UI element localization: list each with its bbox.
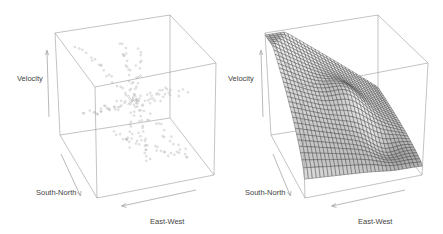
scatter-point — [149, 92, 151, 94]
scatter-point — [145, 138, 147, 140]
scatter-point — [105, 105, 107, 107]
scatter-point — [126, 60, 128, 62]
scatter-point — [116, 85, 118, 87]
scatter-point — [146, 155, 148, 157]
scatter-point — [151, 95, 153, 97]
scatter-point — [168, 92, 170, 94]
cube-front-edges — [55, 15, 216, 198]
cube-edge — [214, 63, 216, 175]
scatter-point — [187, 92, 189, 94]
scatter-point — [140, 95, 142, 97]
scatter-points — [74, 43, 189, 162]
scatter-point — [122, 138, 124, 140]
scatter-point — [159, 89, 161, 91]
scatter-point — [81, 49, 83, 51]
scatter-point — [185, 148, 187, 150]
cube-edge — [305, 175, 422, 198]
scatter-point — [131, 138, 133, 140]
scatter-point — [111, 82, 113, 84]
scatter-point — [130, 112, 132, 114]
scatter-point — [125, 47, 127, 49]
scatter-point — [129, 131, 131, 133]
scatter-point — [130, 121, 132, 123]
scatter-point — [117, 109, 119, 111]
scatter-point — [146, 94, 148, 96]
surface-panel: Velocity South-North East-West — [228, 15, 428, 226]
scatter-point — [103, 69, 105, 71]
cube-hidden-edge — [170, 118, 214, 175]
scatter-point — [116, 100, 118, 102]
scatter-point — [137, 106, 139, 108]
scatter-point — [139, 68, 141, 70]
scatter-point — [119, 43, 121, 45]
east-west-label: East-West — [150, 217, 185, 226]
scatter-point — [142, 131, 144, 133]
scatter-point — [163, 136, 165, 138]
scatter-point — [140, 115, 142, 117]
velocity-label: Velocity — [228, 74, 254, 83]
scatter-point — [100, 108, 102, 110]
scatter-point — [162, 89, 164, 91]
scatter-point — [98, 64, 100, 66]
scatter-point — [133, 104, 135, 106]
scatter-point — [176, 151, 178, 153]
scatter-point — [135, 143, 137, 145]
surface-mesh — [265, 32, 422, 179]
scatter-point — [146, 160, 148, 162]
scatter-point — [160, 123, 162, 125]
scatter-point — [171, 136, 173, 138]
scatter-point — [144, 152, 146, 154]
scatter-point — [178, 144, 180, 146]
scatter-point — [140, 51, 142, 53]
scatter-point — [91, 60, 93, 62]
scatter-point — [140, 75, 142, 77]
scatter-point — [117, 106, 119, 108]
cube-hidden-edge — [60, 118, 170, 135]
scatter-point — [182, 89, 184, 91]
scatter-point — [179, 149, 181, 151]
scatter-point — [143, 110, 145, 112]
cube-edge — [55, 33, 60, 135]
scatter-point — [128, 141, 130, 143]
scatter-point — [133, 115, 135, 117]
scatter-point — [165, 87, 167, 89]
cube-edge — [422, 63, 428, 175]
scatter-point — [160, 150, 162, 152]
scatter-point — [129, 69, 131, 71]
scatter-point — [142, 127, 144, 129]
scatter-point — [129, 98, 131, 100]
cube-edge — [170, 15, 216, 63]
scatter-point — [149, 102, 151, 104]
scatter-point — [154, 100, 156, 102]
scatter-point — [173, 143, 175, 145]
scatter-point — [174, 154, 176, 156]
scatter-point — [85, 52, 87, 54]
scatter-point — [141, 139, 143, 141]
scatter-point — [106, 75, 108, 77]
scatter-point — [108, 74, 110, 76]
scatter-point — [113, 131, 115, 133]
scatter-point — [138, 144, 140, 146]
velocity-axis-arrow — [47, 52, 49, 117]
scatter-point — [157, 146, 159, 148]
scatter-point — [138, 132, 140, 134]
scatter-point — [130, 101, 132, 103]
scatter-point — [137, 48, 139, 50]
scatter-panel: Velocity South-North East-West — [17, 15, 216, 226]
scatter-point — [149, 113, 151, 115]
scatter-point — [144, 140, 146, 142]
south-north-label: South-North — [36, 188, 76, 197]
scatter-point — [126, 66, 128, 68]
scatter-point — [184, 153, 186, 155]
scatter-point — [128, 74, 130, 76]
figure: Velocity South-North East-West Velocity … — [0, 0, 443, 234]
scatter-point — [139, 61, 141, 63]
scatter-point — [78, 48, 80, 50]
scatter-point — [134, 88, 136, 90]
scatter-point — [136, 140, 138, 142]
south-north-label: South-North — [245, 188, 285, 197]
cube-back-edges — [60, 15, 214, 175]
scatter-point — [94, 58, 96, 60]
scatter-point — [139, 98, 141, 100]
east-west-axis-arrow — [122, 190, 196, 206]
